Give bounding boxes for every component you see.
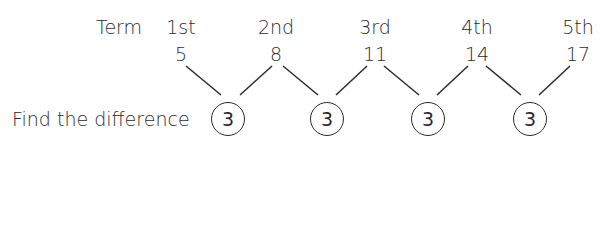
- difference-circle-3: 3: [411, 102, 445, 136]
- difference-circle-2: 3: [310, 102, 344, 136]
- difference-circle-4: 3: [513, 102, 547, 136]
- find-difference-label: Find the difference: [12, 108, 190, 130]
- difference-circle-1: 3: [211, 102, 245, 136]
